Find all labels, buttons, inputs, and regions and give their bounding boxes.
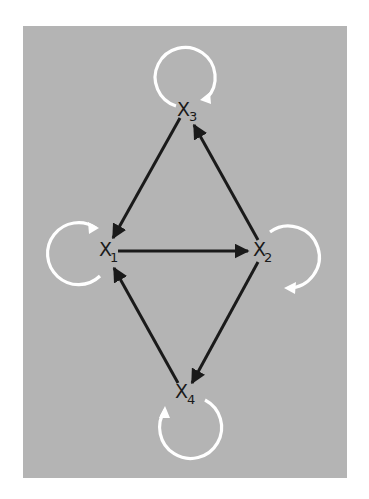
node-x2: X 2 — [253, 238, 272, 265]
loop-arrowhead-icon — [159, 406, 170, 418]
loop-arrowhead-icon — [88, 222, 99, 234]
node-subscript: 1 — [110, 250, 118, 265]
node-x1: X 1 — [99, 238, 118, 265]
self-loop-x4 — [159, 400, 222, 458]
edge-x3-to-x1 — [113, 118, 180, 238]
node-subscript: 4 — [187, 392, 195, 407]
node-subscript: 2 — [264, 250, 272, 265]
loop-arrowhead-icon — [200, 92, 211, 104]
state-transition-diagram: X 3 X 1 X 2 X 4 — [0, 0, 369, 499]
self-loop-x1 — [48, 222, 100, 285]
edge-x2-to-x4 — [192, 262, 258, 383]
loop-arrowhead-icon — [284, 282, 296, 294]
node-x4: X 4 — [175, 380, 195, 407]
node-subscript: 3 — [189, 109, 197, 124]
self-loop-x2 — [270, 226, 319, 294]
edge-x2-to-x3 — [194, 125, 258, 240]
edge-x4-to-x1 — [114, 268, 178, 383]
